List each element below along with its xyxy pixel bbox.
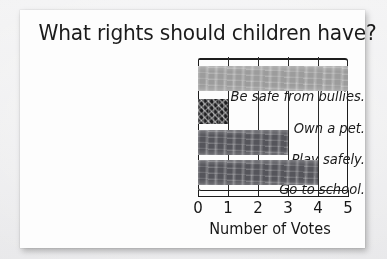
x-tick-0 xyxy=(198,190,199,197)
bar-own-a-pet xyxy=(198,99,228,124)
x-tick-5 xyxy=(348,190,349,197)
bar-go-to-school xyxy=(198,160,318,185)
bar-row-play-safely xyxy=(198,130,288,155)
bar-play-safely xyxy=(198,130,288,155)
bar-row-go-to-school xyxy=(198,160,318,185)
worksheet-card: What rights should children have? Be saf… xyxy=(20,10,365,248)
x-tick-label-0: 0 xyxy=(189,200,207,217)
worksheet-page: What rights should children have? Be saf… xyxy=(0,0,387,259)
x-tick-label-4: 4 xyxy=(309,200,327,217)
x-axis-title: Number of Votes xyxy=(173,221,367,238)
x-tick-label-3: 3 xyxy=(279,200,297,217)
x-tick-1 xyxy=(228,190,229,197)
plot-area xyxy=(198,58,348,191)
x-tick-label-1: 1 xyxy=(219,200,237,217)
x-tick-label-5: 5 xyxy=(339,200,357,217)
bar-be-safe-from-bullies xyxy=(198,66,348,91)
x-tick-2 xyxy=(258,190,259,197)
x-tick-3 xyxy=(288,190,289,197)
x-tick-4 xyxy=(318,190,319,197)
x-axis-line xyxy=(198,196,349,197)
bar-row-own-a-pet xyxy=(198,99,228,124)
x-tick-label-2: 2 xyxy=(249,200,267,217)
bar-row-be-safe-from-bullies xyxy=(198,66,348,91)
chart-title: What rights should children have? xyxy=(39,21,351,45)
